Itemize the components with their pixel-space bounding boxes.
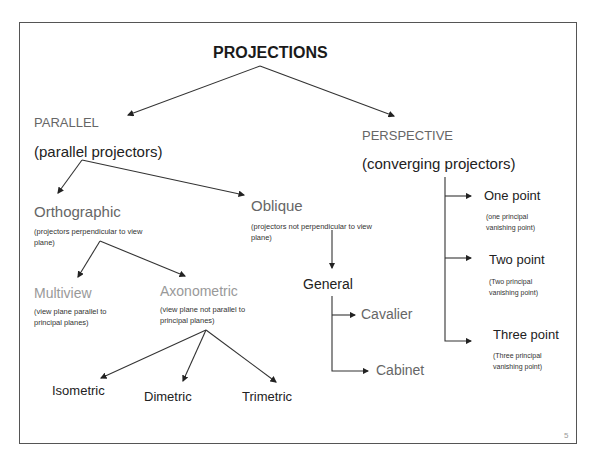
oblique-label: Oblique xyxy=(251,197,303,214)
axonometric-label: Axonometric xyxy=(160,283,238,299)
perspective-desc: (converging projectors) xyxy=(362,155,515,172)
multiview-desc: (view plane parallel to principal planes… xyxy=(34,306,119,328)
parallel-label: PARALLEL xyxy=(34,115,99,130)
one-point-desc: (one principal vanishing point) xyxy=(486,211,556,233)
diagram-title: PROJECTIONS xyxy=(213,44,328,62)
dimetric-label: Dimetric xyxy=(144,389,192,404)
trimetric-label: Trimetric xyxy=(242,389,292,404)
oblique-desc: (projectors not perpendicular to view pl… xyxy=(251,221,386,243)
multiview-label: Multiview xyxy=(34,285,92,301)
axonometric-desc: (view plane not parallel to principal pl… xyxy=(160,304,270,326)
perspective-label: PERSPECTIVE xyxy=(362,128,453,143)
cavalier-label: Cavalier xyxy=(361,306,412,322)
general-label: General xyxy=(303,276,353,292)
parallel-desc: (parallel projectors) xyxy=(34,143,162,160)
orthographic-desc: (projectors perpendicular to view plane) xyxy=(34,226,149,248)
three-point-label: Three point xyxy=(493,327,559,342)
two-point-label: Two point xyxy=(489,252,545,267)
two-point-desc: (Two principal vanishing point) xyxy=(489,276,559,298)
one-point-label: One point xyxy=(484,188,540,203)
three-point-desc: (Three principal vanishing point) xyxy=(493,350,568,372)
cabinet-label: Cabinet xyxy=(376,362,424,378)
orthographic-label: Orthographic xyxy=(34,203,121,220)
page-number: 5 xyxy=(564,431,568,440)
isometric-label: Isometric xyxy=(52,383,105,398)
